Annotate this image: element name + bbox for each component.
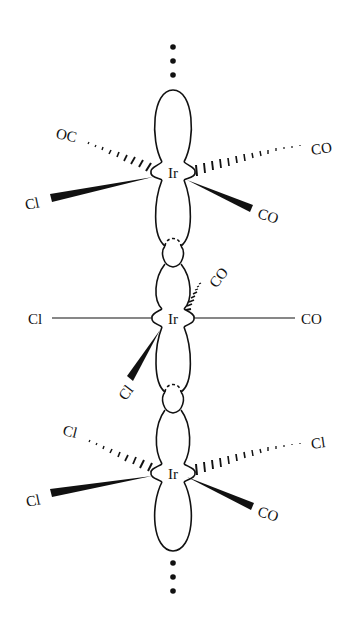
iridium-unit-1: Ir OC — [24, 125, 333, 226]
ligand-label-front-down-2: Cl — [115, 382, 136, 403]
hashed-bond-back-left-3 — [89, 440, 152, 471]
ligand-label-left-2: Cl — [28, 311, 42, 327]
metal-label-ir-1: Ir — [168, 165, 178, 181]
wedge-bond-front-left-3 — [50, 476, 152, 497]
ligand-label-front-right-3: CO — [256, 503, 281, 525]
ligand-label-back-right-1: CO — [310, 139, 333, 158]
ligand-label-front-left-1: Cl — [24, 194, 41, 213]
ligand-label-front-right-1: CO — [256, 205, 281, 227]
metal-label-ir-2: Ir — [168, 311, 178, 327]
hashed-bond-back-up-2 — [186, 283, 201, 310]
ligand-label-back-left-1: OC — [55, 125, 79, 145]
wedge-bond-front-left-1 — [50, 177, 153, 202]
bottom-continuation-dots — [170, 560, 176, 594]
diagram-canvas: Ir OC — [0, 0, 354, 627]
ligand-label-back-up-2: CO — [206, 264, 232, 290]
wedge-bond-front-down-2 — [127, 330, 160, 381]
hashed-bond-back-right-3 — [196, 443, 300, 475]
wedge-bond-front-right-3 — [187, 477, 254, 510]
ligand-label-back-right-3: Cl — [310, 434, 326, 452]
top-continuation-dots — [170, 44, 176, 78]
wedge-bond-front-right-1 — [187, 180, 253, 212]
iridium-chain-diagram: Ir OC — [0, 0, 354, 627]
iridium-unit-3: Ir Cl — [25, 422, 327, 525]
metal-label-ir-3: Ir — [168, 466, 178, 482]
hashed-bond-back-right-1 — [196, 145, 300, 176]
ligand-label-back-left-3: Cl — [61, 422, 79, 441]
hashed-bond-back-left-1 — [88, 142, 151, 171]
iridium-unit-2: Ir Cl CO CO Cl — [28, 264, 322, 403]
ligand-label-front-left-3: Cl — [25, 491, 42, 510]
ligand-label-right-2: CO — [301, 311, 322, 327]
